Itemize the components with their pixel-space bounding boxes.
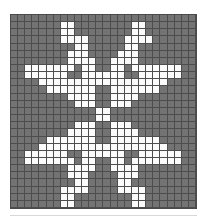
background-cell[interactable] (175, 108, 182, 115)
stitch-cell[interactable] (139, 29, 146, 36)
stitch-cell[interactable] (118, 58, 125, 65)
background-cell[interactable] (139, 58, 146, 65)
background-cell[interactable] (75, 151, 82, 158)
background-cell[interactable] (32, 22, 39, 29)
background-cell[interactable] (118, 15, 125, 22)
background-cell[interactable] (182, 44, 189, 51)
background-cell[interactable] (132, 115, 139, 122)
background-cell[interactable] (189, 137, 196, 144)
stitch-cell[interactable] (61, 22, 68, 29)
background-cell[interactable] (18, 137, 25, 144)
background-cell[interactable] (89, 172, 96, 179)
background-cell[interactable] (25, 22, 32, 29)
background-cell[interactable] (11, 122, 18, 129)
background-cell[interactable] (160, 187, 167, 194)
stitch-cell[interactable] (175, 72, 182, 79)
stitch-cell[interactable] (118, 137, 125, 144)
background-cell[interactable] (189, 79, 196, 86)
background-cell[interactable] (82, 22, 89, 29)
background-cell[interactable] (39, 115, 46, 122)
stitch-cell[interactable] (168, 72, 175, 79)
stitch-cell[interactable] (75, 51, 82, 58)
background-cell[interactable] (47, 101, 54, 108)
background-cell[interactable] (146, 201, 153, 208)
background-cell[interactable] (39, 58, 46, 65)
stitch-cell[interactable] (68, 86, 75, 93)
stitch-cell[interactable] (89, 144, 96, 151)
background-cell[interactable] (11, 58, 18, 65)
stitch-cell[interactable] (61, 158, 68, 165)
background-cell[interactable] (125, 22, 132, 29)
background-cell[interactable] (25, 36, 32, 43)
background-cell[interactable] (47, 194, 54, 201)
background-cell[interactable] (153, 22, 160, 29)
stitch-cell[interactable] (139, 79, 146, 86)
background-cell[interactable] (132, 151, 139, 158)
stitch-cell[interactable] (25, 65, 32, 72)
background-cell[interactable] (175, 15, 182, 22)
stitch-cell[interactable] (118, 172, 125, 179)
background-cell[interactable] (189, 108, 196, 115)
background-cell[interactable] (54, 172, 61, 179)
stitch-cell[interactable] (125, 79, 132, 86)
background-cell[interactable] (160, 58, 167, 65)
background-cell[interactable] (111, 51, 118, 58)
background-cell[interactable] (125, 65, 132, 72)
background-cell[interactable] (39, 86, 46, 93)
background-cell[interactable] (75, 115, 82, 122)
background-cell[interactable] (68, 179, 75, 186)
stitch-cell[interactable] (54, 151, 61, 158)
background-cell[interactable] (160, 201, 167, 208)
background-cell[interactable] (153, 194, 160, 201)
background-cell[interactable] (39, 36, 46, 43)
background-cell[interactable] (146, 51, 153, 58)
background-cell[interactable] (175, 187, 182, 194)
background-cell[interactable] (32, 194, 39, 201)
background-cell[interactable] (39, 165, 46, 172)
background-cell[interactable] (18, 72, 25, 79)
stitch-cell[interactable] (118, 94, 125, 101)
background-cell[interactable] (25, 172, 32, 179)
stitch-cell[interactable] (68, 165, 75, 172)
background-cell[interactable] (54, 15, 61, 22)
background-cell[interactable] (146, 101, 153, 108)
background-cell[interactable] (103, 15, 110, 22)
background-cell[interactable] (160, 29, 167, 36)
background-cell[interactable] (61, 15, 68, 22)
stitch-cell[interactable] (82, 122, 89, 129)
stitch-cell[interactable] (160, 144, 167, 151)
background-cell[interactable] (25, 187, 32, 194)
background-cell[interactable] (96, 51, 103, 58)
stitch-cell[interactable] (132, 137, 139, 144)
stitch-cell[interactable] (139, 22, 146, 29)
background-cell[interactable] (153, 51, 160, 58)
background-cell[interactable] (54, 187, 61, 194)
background-cell[interactable] (103, 194, 110, 201)
background-cell[interactable] (25, 137, 32, 144)
background-cell[interactable] (175, 36, 182, 43)
background-cell[interactable] (18, 94, 25, 101)
background-cell[interactable] (18, 122, 25, 129)
stitch-cell[interactable] (139, 65, 146, 72)
background-cell[interactable] (11, 115, 18, 122)
stitch-cell[interactable] (39, 72, 46, 79)
background-cell[interactable] (18, 151, 25, 158)
background-cell[interactable] (96, 158, 103, 165)
background-cell[interactable] (25, 101, 32, 108)
background-cell[interactable] (189, 158, 196, 165)
background-cell[interactable] (75, 29, 82, 36)
background-cell[interactable] (168, 79, 175, 86)
background-cell[interactable] (153, 122, 160, 129)
background-cell[interactable] (32, 15, 39, 22)
background-cell[interactable] (89, 36, 96, 43)
stitch-cell[interactable] (39, 65, 46, 72)
background-cell[interactable] (146, 108, 153, 115)
background-cell[interactable] (68, 44, 75, 51)
background-cell[interactable] (168, 86, 175, 93)
stitch-cell[interactable] (175, 158, 182, 165)
stitch-cell[interactable] (132, 29, 139, 36)
background-cell[interactable] (146, 94, 153, 101)
background-cell[interactable] (54, 115, 61, 122)
background-cell[interactable] (139, 101, 146, 108)
background-cell[interactable] (111, 187, 118, 194)
